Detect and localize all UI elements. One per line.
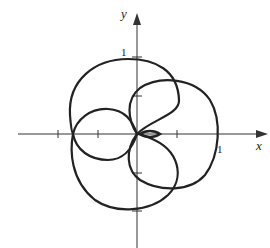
x-tick-label: 1 [217, 143, 223, 155]
x-axis-arrow-icon [256, 130, 268, 138]
x-axis-label: x [256, 138, 262, 154]
y-axis-label: y [121, 6, 127, 22]
y-tick-label: 1 [121, 46, 127, 58]
polar-diagram: y x 1 1 [0, 0, 270, 248]
plot-canvas [0, 0, 270, 248]
y-axis-arrow-icon [133, 13, 141, 25]
